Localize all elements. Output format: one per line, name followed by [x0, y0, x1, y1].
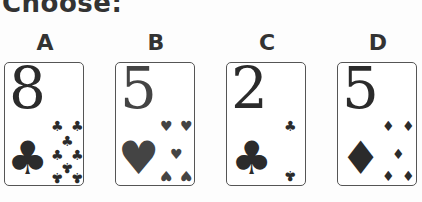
diamond-icon: ♦ [402, 169, 415, 183]
diamond-icon: ♦ [392, 147, 405, 161]
club-icon: ♣ [284, 169, 297, 183]
club-icon: ♣ [284, 119, 297, 133]
heart-icon: ♥ [160, 169, 173, 183]
card-option-d[interactable]: 5 ♦ ♦ ♦ ♦ ♦ ♦ [337, 62, 417, 186]
club-icon: ♣ [61, 134, 74, 148]
card-rank: 8 [9, 59, 46, 117]
heart-icon: ♥ [180, 169, 193, 183]
option-label-b: B [115, 30, 197, 55]
club-icon: ♣ [71, 171, 84, 185]
heart-icon: ♥ [170, 147, 183, 161]
option-label-a: A [4, 30, 86, 55]
diamond-large-icon: ♦ [340, 135, 381, 181]
card-rank: 2 [231, 59, 268, 117]
option-label-c: C [226, 30, 308, 55]
club-large-icon: ♣ [231, 135, 272, 181]
prompt-title: Choose: [2, 0, 122, 18]
card-rank: 5 [342, 59, 379, 117]
heart-large-icon: ♥ [118, 135, 159, 181]
club-large-icon: ♣ [7, 135, 48, 181]
club-icon: ♣ [51, 171, 64, 185]
club-icon: ♣ [51, 119, 64, 133]
diamond-icon: ♦ [382, 169, 395, 183]
club-icon: ♣ [71, 119, 84, 133]
heart-icon: ♥ [180, 119, 193, 133]
diamond-icon: ♦ [382, 119, 395, 133]
card-rank: 5 [120, 59, 157, 117]
card-option-a[interactable]: 8 ♣ ♣ ♣ ♣ ♣ ♣ ♣ ♣ ♣ [4, 62, 84, 186]
heart-icon: ♥ [160, 119, 173, 133]
option-label-d: D [337, 30, 419, 55]
diamond-icon: ♦ [402, 119, 415, 133]
card-option-c[interactable]: 2 ♣ ♣ ♣ [226, 62, 306, 186]
card-option-b[interactable]: 5 ♥ ♥ ♥ ♥ ♥ ♥ [115, 62, 195, 186]
